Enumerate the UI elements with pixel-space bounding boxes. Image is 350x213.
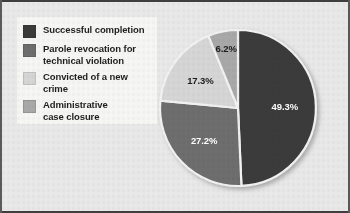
figure-frame-bottom (0, 211, 350, 213)
legend-label-administrative-closure: Administrative case closure (43, 99, 108, 122)
figure-frame-left (0, 0, 2, 213)
pie-label-successful-completion: 49.3% (272, 101, 299, 112)
legend-label-parole-revocation: Parole revocation for technical violatio… (43, 43, 136, 66)
pie-label-administrative-closure: 6.2% (216, 43, 238, 54)
pie-label-convicted-new-crime: 17.3% (187, 75, 214, 86)
legend-item-convicted-new-crime: Convicted of a new crime (23, 71, 152, 94)
chart-legend: Successful completion Parole revocation … (17, 17, 157, 124)
legend-item-administrative-closure: Administrative case closure (23, 99, 152, 122)
pie-chart-figure: Successful completion Parole revocation … (0, 0, 350, 213)
pie-chart-svg: 49.3%27.2%17.3%6.2% (157, 16, 343, 201)
legend-swatch-administrative-closure (23, 100, 36, 113)
legend-label-successful-completion: Successful completion (43, 24, 144, 36)
legend-label-convicted-new-crime: Convicted of a new crime (43, 71, 152, 94)
legend-item-successful-completion: Successful completion (23, 24, 152, 38)
legend-item-parole-revocation: Parole revocation for technical violatio… (23, 43, 152, 66)
legend-swatch-convicted-new-crime (23, 72, 36, 85)
figure-frame-top (0, 0, 350, 2)
legend-swatch-successful-completion (23, 25, 36, 38)
pie-chart: 49.3%27.2%17.3%6.2% (157, 16, 343, 201)
legend-swatch-parole-revocation (23, 44, 36, 57)
pie-label-parole-revocation: 27.2% (191, 135, 218, 146)
